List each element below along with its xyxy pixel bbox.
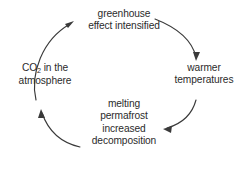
arrowhead-to-greenhouse-icon [65,21,74,28]
node-permafrost-line-2: permafrost [73,110,175,122]
node-greenhouse-line-2: effect intensified [77,20,171,32]
node-co2-subscript: 2 [37,66,41,75]
node-co2-formula-text: CO [22,62,37,73]
node-greenhouse-line-1: greenhouse [77,8,171,20]
node-permafrost-line-4: decomposition [73,135,175,147]
node-co2-line-2: atmosphere [4,75,86,87]
arrowhead-to-warmer-icon [193,52,200,61]
node-co2-suffix-text: in the [41,62,68,73]
node-melting-permafrost: melting permafrost increased decompositi… [73,98,175,148]
node-permafrost-line-1: melting [73,98,175,110]
climate-feedback-cycle-diagram: greenhouse effect intensified warmer tem… [0,0,247,171]
node-warmer-line-2: temperatures [165,74,243,86]
node-permafrost-line-3: increased [73,123,175,135]
arrowhead-to-co2-icon [38,109,45,118]
node-co2-line-1: CO2 in the [4,62,86,75]
node-co2-atmosphere: CO2 in the atmosphere [4,62,86,88]
node-warmer-line-1: warmer [165,62,243,74]
node-greenhouse-effect: greenhouse effect intensified [77,8,171,33]
node-warmer-temperatures: warmer temperatures [165,62,243,87]
